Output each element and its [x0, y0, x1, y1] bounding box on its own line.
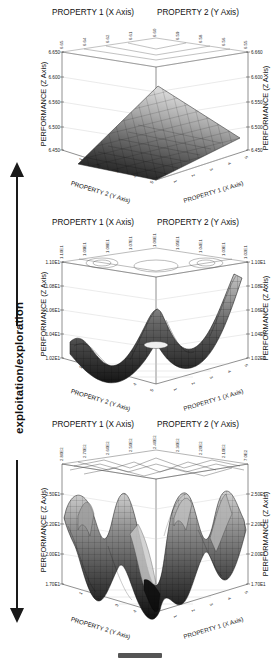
svg-text:2.20E2: 2.20E2 — [198, 441, 203, 455]
plot-2-xlabel-bottom: PROPERTY 1 (X Axis) — [183, 387, 244, 412]
plot-1-zlabel-right: PERFORMANCE (Z Axis) — [261, 66, 270, 151]
svg-text:5: 5 — [244, 590, 250, 595]
svg-text:1.09E1: 1.09E1 — [82, 242, 87, 256]
svg-text:1.10E1: 1.10E1 — [59, 245, 64, 259]
plot-3-title-y: PROPERTY 2 (Y Axis) — [157, 420, 239, 429]
svg-text:5: 5 — [149, 388, 155, 393]
svg-text:1.02E1: 1.02E1 — [243, 245, 248, 259]
svg-text:2.70E2: 2.70E2 — [82, 444, 87, 458]
plot-3-canvas: 2.80E2 2.70E2 2.60E2 2.50E2 2.40E2 2.30E… — [34, 434, 276, 648]
svg-text:7.0E2: 7.0E2 — [243, 449, 248, 461]
svg-text:2.10E2: 2.10E2 — [221, 444, 226, 458]
plot-1-title-x: PROPERTY 1 (X Axis) — [52, 8, 134, 17]
plot-3-xlabel-bottom: PROPERTY 1 (X Axis) — [183, 615, 244, 640]
svg-text:1.10E1: 1.10E1 — [251, 260, 266, 265]
axis-caption: exploitation/exploration — [13, 263, 25, 473]
plot-2-ylabel-bottom: PROPERTY 2 (Y Axis) — [70, 387, 131, 412]
svg-text:1.03E1: 1.03E1 — [221, 242, 226, 256]
svg-text:1: 1 — [173, 387, 179, 392]
svg-text:2.60E2: 2.60E2 — [105, 441, 110, 455]
down-arrow-icon — [10, 608, 24, 623]
svg-text:5: 5 — [244, 155, 250, 160]
svg-text:1.70E1: 1.70E1 — [45, 582, 60, 587]
svg-text:2.80E2: 2.80E2 — [59, 447, 64, 461]
svg-text:1.06E1: 1.06E1 — [152, 233, 157, 247]
plot-1-top-tick: 6.65 — [59, 40, 64, 49]
plot-2-title-y: PROPERTY 2 (Y Axis) — [157, 218, 239, 227]
up-arrow-icon — [10, 162, 24, 177]
plot-1-ztick-left: 6.560 — [49, 100, 61, 105]
svg-text:2: 2 — [191, 381, 197, 386]
svg-text:1.05E1: 1.05E1 — [175, 236, 180, 250]
svg-text:2: 2 — [191, 173, 197, 178]
plot-2-zlabel-right: PERFORMANCE (Z Axis) — [261, 276, 270, 361]
surface-plot-2: PROPERTY 1 (X Axis) PROPERTY 2 (Y Axis) — [34, 218, 276, 413]
svg-text:1: 1 — [173, 179, 179, 184]
plot-1-ztick-left: 6.650 — [49, 50, 61, 55]
svg-text:1.04E1: 1.04E1 — [198, 239, 203, 253]
surface-plot-1: PROPERTY 1 (X Axis) PROPERTY 2 (Y Axis) — [34, 8, 276, 213]
surface-plot-3: PROPERTY 1 (X Axis) PROPERTY 2 (Y Axis) — [34, 420, 276, 648]
plot-3-ylabel-bottom: PROPERTY 2 (Y Axis) — [70, 615, 131, 640]
svg-text:5: 5 — [244, 363, 250, 368]
svg-text:3: 3 — [209, 602, 215, 607]
svg-text:1.07E1: 1.07E1 — [128, 236, 133, 250]
plot-1-zlabel-left: PERFORMANCE (Z Axis) — [39, 62, 48, 147]
svg-text:5: 5 — [149, 180, 155, 185]
plot-3-title-x: PROPERTY 1 (X Axis) — [52, 420, 134, 429]
scale-bar — [118, 653, 162, 658]
svg-text:4: 4 — [227, 161, 233, 166]
down-arrow-shaft — [16, 460, 18, 610]
svg-text:4: 4 — [132, 382, 138, 387]
plot-1-ztick-left: 6.500 — [49, 125, 61, 130]
svg-text:1: 1 — [173, 614, 179, 619]
plot-1-top-tick: 6.61 — [128, 31, 133, 40]
exploitation-exploration-axis: exploitation/exploration — [0, 150, 34, 620]
svg-text:4: 4 — [227, 596, 233, 601]
plot-1-ztick-left: 6.600 — [49, 75, 61, 80]
svg-text:3: 3 — [209, 167, 215, 172]
plot-1-ztick-right: 6.660 — [251, 50, 263, 55]
svg-text:3: 3 — [114, 603, 120, 608]
figure-root: exploitation/exploration PROPERTY 1 (X A… — [0, 0, 276, 672]
plot-1-top-tick: 6.59 — [175, 31, 180, 40]
plot-1-top-tick: 6.55 — [243, 40, 248, 49]
plot-2-zlabel-left: PERFORMANCE (Z Axis) — [39, 272, 48, 357]
svg-text:1.10E1: 1.10E1 — [45, 260, 60, 265]
plot-3-zlabel-left: PERFORMANCE (Z Axis) — [39, 488, 48, 573]
plot-1-top-tick: 6.64 — [82, 37, 87, 46]
plot-2-canvas: 1.10E1 1.09E1 1.08E1 1.07E1 1.06E1 1.05E… — [34, 232, 276, 413]
plot-3-zlabel-right: PERFORMANCE (Z Axis) — [261, 492, 270, 577]
plot-1-top-tick: 6.62 — [105, 34, 110, 43]
svg-text:1.70E1: 1.70E1 — [251, 582, 266, 587]
plot-1-top-tick: 6.56 — [221, 37, 226, 46]
plot-1-xlabel-bottom: PROPERTY 1 (X Axis) — [183, 179, 244, 204]
plot-1-canvas: 6.65 6.64 6.62 6.61 6.60 6.59 6.58 6.56 … — [34, 22, 276, 213]
svg-text:4: 4 — [132, 609, 138, 614]
svg-text:1.08E1: 1.08E1 — [105, 239, 110, 253]
svg-text:2.30E2: 2.30E2 — [175, 438, 180, 452]
svg-text:2.50E2: 2.50E2 — [128, 438, 133, 452]
svg-text:4: 4 — [227, 369, 233, 374]
plot-1-title-y: PROPERTY 2 (Y Axis) — [157, 8, 239, 17]
plot-1-ztick-left: 6.450 — [49, 148, 61, 153]
plot-1-ylabel-bottom: PROPERTY 2 (Y Axis) — [70, 179, 131, 204]
svg-text:2.40E2: 2.40E2 — [152, 435, 157, 449]
svg-text:3: 3 — [209, 375, 215, 380]
svg-text:1: 1 — [78, 591, 84, 596]
svg-text:2: 2 — [191, 608, 197, 613]
plot-2-title-x: PROPERTY 1 (X Axis) — [52, 218, 134, 227]
plot-1-top-tick: 6.60 — [152, 28, 157, 37]
plot-1-top-tick: 6.58 — [198, 34, 203, 43]
